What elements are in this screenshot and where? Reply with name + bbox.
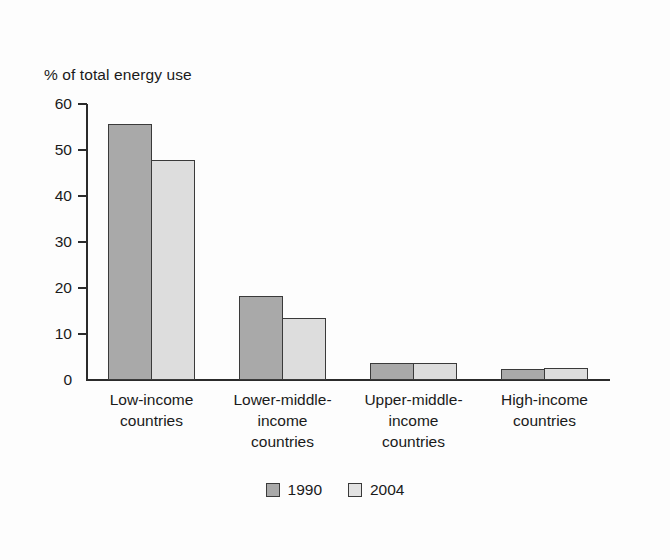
bar-chart-figure: % of total energy use 0102030405060 Low-… (0, 0, 670, 560)
bar-group (348, 104, 479, 380)
y-axis-tick-label: 60 (32, 96, 72, 112)
dark-gray-swatch (266, 483, 280, 497)
bar-2004-3[interactable] (413, 363, 457, 380)
bar-group-bars (86, 104, 217, 380)
bar-1990-2[interactable] (239, 296, 283, 380)
legend-item-label: 2004 (370, 481, 404, 499)
legend-item-label: 1990 (288, 481, 322, 499)
bar-group (479, 104, 610, 380)
bar-2004-2[interactable] (282, 318, 326, 380)
y-axis-tick-labels: 0102030405060 (28, 0, 72, 560)
y-axis-tick-label: 10 (32, 326, 72, 342)
light-gray-swatch (348, 483, 362, 497)
chart-legend: 19902004 (0, 481, 670, 499)
category-label-line: High-income (455, 390, 635, 411)
bar-group-bars (348, 104, 479, 380)
bar-group (86, 104, 217, 380)
category-label-line: countries (324, 432, 504, 453)
x-axis-category-label: High-incomecountries (455, 390, 635, 432)
y-axis-tick-label: 50 (32, 142, 72, 158)
bar-1990-4[interactable] (501, 369, 545, 381)
y-axis-tick-label: 30 (32, 234, 72, 250)
bar-group-bars (479, 104, 610, 380)
bar-2004-1[interactable] (151, 160, 195, 380)
bar-1990-1[interactable] (108, 124, 152, 380)
y-axis-tick-label: 20 (32, 280, 72, 296)
y-axis-tick-label: 40 (32, 188, 72, 204)
category-label-line: countries (455, 411, 635, 432)
legend-item-2004[interactable]: 2004 (348, 481, 404, 499)
bar-2004-4[interactable] (544, 368, 588, 380)
bar-group (217, 104, 348, 380)
bar-1990-3[interactable] (370, 363, 414, 380)
y-axis-tick-label: 0 (32, 372, 72, 388)
legend-item-1990[interactable]: 1990 (266, 481, 322, 499)
plot-area (86, 104, 610, 380)
bar-group-bars (217, 104, 348, 380)
